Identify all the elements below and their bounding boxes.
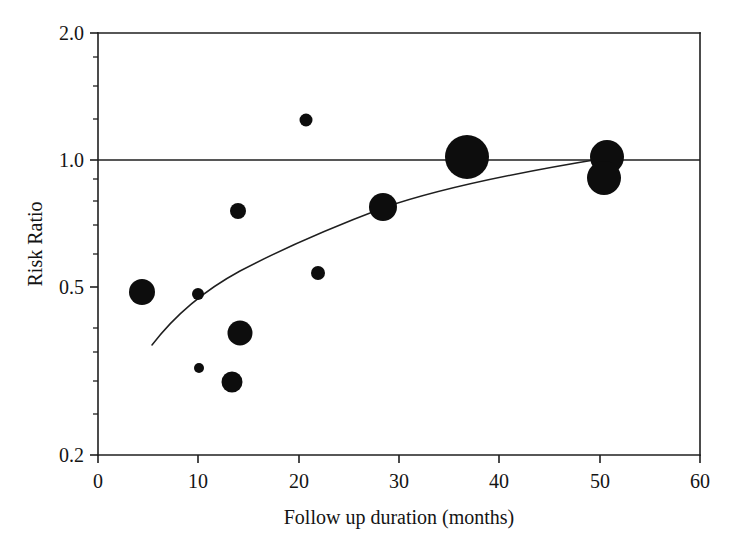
chart-figure: 2.0 1.0 0.5 0.2 0 10 20 30 40 50 60 Risk… — [0, 0, 731, 544]
data-point-bubble[interactable] — [369, 193, 397, 221]
x-tick-label-20: 20 — [289, 470, 309, 492]
x-axis-title: Follow up duration (months) — [284, 506, 515, 529]
x-axis-ticks — [98, 455, 700, 463]
scatter-plot-canvas: 2.0 1.0 0.5 0.2 0 10 20 30 40 50 60 Risk… — [0, 0, 731, 544]
data-point-bubble[interactable] — [311, 266, 325, 280]
data-point-bubble[interactable] — [228, 321, 253, 346]
x-tick-label-50: 50 — [590, 470, 610, 492]
y-tick-label-0_5: 0.5 — [59, 276, 84, 298]
data-points-group — [129, 114, 624, 393]
x-tick-label-60: 60 — [690, 470, 710, 492]
x-axis-tick-labels: 0 10 20 30 40 50 60 — [93, 470, 710, 492]
data-point-bubble[interactable] — [300, 114, 313, 127]
data-point-bubble[interactable] — [230, 203, 246, 219]
y-tick-label-1_0: 1.0 — [59, 149, 84, 171]
x-tick-label-40: 40 — [489, 470, 509, 492]
y-axis-tick-labels: 2.0 1.0 0.5 0.2 — [59, 22, 84, 466]
x-tick-label-30: 30 — [389, 470, 409, 492]
x-tick-label-10: 10 — [188, 470, 208, 492]
y-tick-label-0_2: 0.2 — [59, 444, 84, 466]
y-axis-major-ticks — [90, 33, 98, 455]
axis-frame — [98, 33, 700, 455]
data-point-bubble[interactable] — [192, 288, 204, 300]
x-tick-label-0: 0 — [93, 470, 103, 492]
y-axis-title: Risk Ratio — [24, 201, 46, 286]
data-point-bubble[interactable] — [222, 372, 243, 393]
data-point-bubble[interactable] — [587, 161, 621, 195]
trend-curve — [152, 158, 606, 345]
data-point-bubble[interactable] — [129, 279, 155, 305]
data-point-bubble[interactable] — [445, 135, 489, 179]
y-tick-label-2_0: 2.0 — [59, 22, 84, 44]
data-point-bubble[interactable] — [194, 363, 204, 373]
